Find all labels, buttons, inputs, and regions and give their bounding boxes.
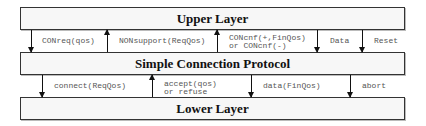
arrow-down-icon (31, 30, 32, 52)
arrow-up-icon (152, 75, 153, 97)
lower-layer-title: Lower Layer (176, 101, 248, 117)
arrow-down-icon (350, 75, 351, 97)
protocol-layer-title: Simple Connection Protocol (135, 56, 290, 72)
label-abort: abort (362, 82, 386, 90)
upper-layer-title: Upper Layer (177, 11, 249, 27)
label-concnf-alt: or CONcnf(-) (229, 42, 287, 50)
label-data: Data (330, 37, 349, 45)
upper-layer-box: Upper Layer (20, 7, 405, 30)
arrow-up-icon (107, 30, 108, 52)
arrow-down-icon (362, 30, 363, 52)
arrow-down-icon (42, 75, 43, 97)
label-connect: connect(ReqQos) (54, 82, 126, 90)
lower-layer-box: Lower Layer (20, 97, 405, 120)
label-nonsupport: NONsupport(ReqQos) (119, 37, 205, 45)
label-conreq: CONreq(qos) (42, 37, 95, 45)
arrow-up-icon (217, 30, 218, 52)
protocol-layer-box: Simple Connection Protocol (20, 52, 405, 75)
label-reset: Reset (374, 37, 398, 45)
label-data-finqos: data(FinQos) (263, 82, 321, 90)
arrow-down-icon (317, 30, 318, 52)
label-refuse: or refuse (164, 88, 207, 96)
arrow-down-icon (251, 75, 252, 97)
